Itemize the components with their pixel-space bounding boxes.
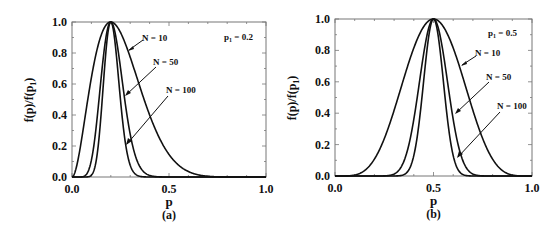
label-a-n10: N = 10 [142,33,168,43]
ytick-a-3: 0.6 [52,77,67,91]
ytick-b-5: 1.0 [315,12,330,26]
arrow-b-n100 [458,112,500,157]
annotation-p1-b: p1 = 0.5 [488,28,517,39]
arrowhead-a-n10 [128,46,134,51]
label-b-n10: N = 10 [475,48,501,58]
curve-b-n10 [335,19,532,176]
ytick-b-4: 0.8 [315,43,330,57]
xlabel-a: p [165,194,172,209]
xtick-b-2: 1.0 [525,181,540,195]
xtick-b-0: 0.0 [328,181,343,195]
label-b-n100: N = 100 [497,101,527,111]
panel-a: 0.0 0.2 0.4 0.6 0.8 1.0 0.0 0.5 1.0 p (a… [22,15,274,222]
label-a-n100: N = 100 [166,85,196,95]
figure: 0.0 0.2 0.4 0.6 0.8 1.0 0.0 0.5 1.0 p (a… [0,0,560,230]
curve-b-n100 [335,19,532,176]
label-a-n50: N = 50 [153,57,179,67]
plot-frame-b [335,19,532,176]
xtick-a-2: 1.0 [259,182,274,196]
curve-b-n50 [335,19,532,176]
ytick-b-1: 0.2 [315,138,330,152]
ytick-a-4: 0.8 [52,46,67,60]
ticks-b [335,19,532,176]
annotation-p1-a: p1 = 0.2 [224,32,253,43]
ytick-b-3: 0.6 [315,75,330,89]
ytick-b-2: 0.4 [315,106,330,120]
panel-b: 0.0 0.2 0.4 0.6 0.8 1.0 0.0 0.5 1.0 p (b… [285,12,540,221]
xlabel-b: p [430,193,437,208]
arrow-a-n100 [127,96,168,144]
xtick-a-0: 0.0 [65,182,80,196]
panel-label-a: (a) [162,208,176,222]
ytick-a-1: 0.2 [52,139,67,153]
label-b-n50: N = 50 [486,72,512,82]
curve-a-n10 [72,22,266,177]
ylabel-a: f(p)/f(p1) [22,78,38,123]
ytick-a-5: 1.0 [52,15,67,29]
arrowhead-b-n10 [461,61,467,66]
panel-label-b: (b) [426,207,441,221]
ylabel-b: f(p)/f(p1) [285,76,301,121]
ytick-a-2: 0.4 [52,108,67,122]
